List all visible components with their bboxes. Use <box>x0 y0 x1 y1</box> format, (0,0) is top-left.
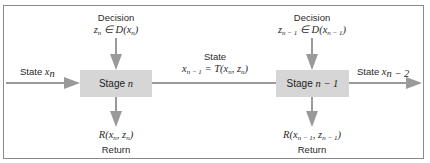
transition-label: State xn − 1 = T(xn, zn) <box>160 51 270 78</box>
stage-label: Stage <box>287 78 313 89</box>
input-state-label: State xn <box>20 66 55 80</box>
return-label-stage-n-1: R(xn − 1, zn − 1) Return <box>257 129 367 156</box>
stage-label: Stage <box>99 78 125 89</box>
stage-index: n − 1 <box>316 78 339 89</box>
transition-formula: xn − 1 = T(xn, zn) <box>160 63 270 78</box>
decision-label-stage-n: Decision zn ∈ D(xn) <box>76 12 156 39</box>
stage-n-box: Stage n <box>80 70 152 97</box>
stage-index: n <box>128 78 133 89</box>
transition-title: State <box>160 51 270 63</box>
return-label-stage-n: R(xn, zn) Return <box>76 129 156 156</box>
output-state-label: State xn − 2 <box>357 66 409 80</box>
decision-label-stage-n-1: Decision zn − 1 ∈ D(xn − 1) <box>262 12 362 39</box>
stage-n-1-box: Stage n − 1 <box>276 70 349 97</box>
